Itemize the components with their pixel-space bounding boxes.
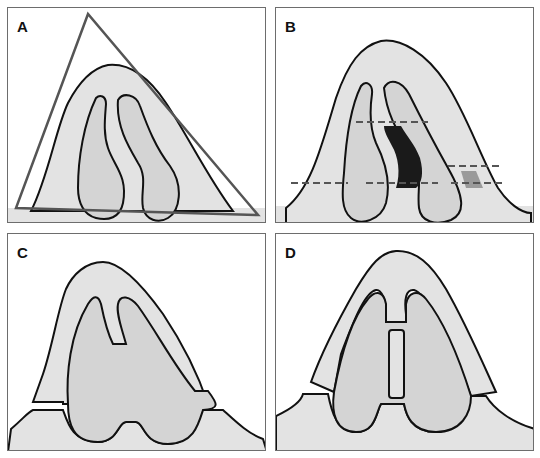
panel-label: B <box>285 18 296 35</box>
panel-d: D <box>275 233 534 451</box>
panel-a: A <box>7 7 266 223</box>
panel-c-diagram <box>8 234 266 451</box>
panel-label: D <box>285 244 296 261</box>
panel-label: A <box>17 18 28 35</box>
panel-b-diagram <box>276 8 534 223</box>
panel-a-diagram <box>8 8 266 223</box>
panel-b: B <box>275 7 534 223</box>
panel-c: C <box>7 233 266 451</box>
septal-strut-graft <box>389 330 404 398</box>
panel-d-diagram <box>276 234 534 451</box>
panel-label: C <box>17 244 28 261</box>
